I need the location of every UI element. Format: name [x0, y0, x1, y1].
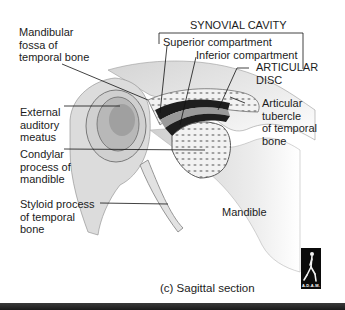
label-condylar-process: Condylar process of mandible	[20, 148, 71, 186]
label-mandible: Mandible	[222, 206, 267, 219]
styloid-process	[140, 160, 183, 232]
label-articular-disc: ARTICULAR DISC	[256, 61, 318, 86]
label-synovial-cavity: SYNOVIAL CAVITY	[190, 19, 287, 32]
external-auditory-meatus	[86, 90, 146, 162]
label-superior-compartment: Superior compartment	[163, 36, 272, 49]
walking-figure-icon	[301, 250, 321, 284]
label-inferior-compartment: Inferior compartment	[196, 49, 297, 62]
bottom-divider-bar	[0, 303, 345, 310]
logo-text: A.D.A.M.	[301, 283, 321, 288]
label-mandibular-fossa: Mandibular fossa of temporal bone	[19, 26, 89, 64]
adam-logo: A.D.A.M.	[301, 248, 321, 289]
label-external-auditory-meatus: External auditory meatus	[20, 106, 60, 144]
label-articular-tubercle: Articular tubercle of temporal bone	[262, 97, 317, 147]
label-styloid-process: Styloid process of temporal bone	[20, 198, 95, 236]
figure-caption: (c) Sagittal section	[160, 282, 255, 295]
